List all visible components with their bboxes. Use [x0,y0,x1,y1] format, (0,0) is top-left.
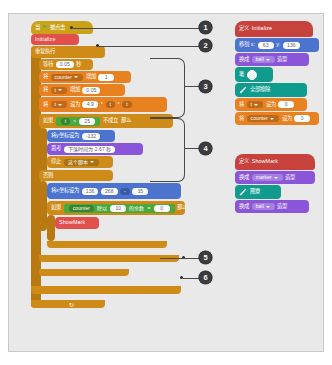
change-counter-variable-dropdown[interactable]: counter [51,74,83,81]
change-counter-label-mid: 增加 [86,74,96,79]
define-set-t-variable-dropdown[interactable]: t [247,101,264,108]
if-mod-variable[interactable]: counter [69,205,94,212]
switch-costume-marker-value: marker [256,175,272,180]
think-label: 思考 [51,146,61,151]
stop-option-value: 这个脚本 [68,160,88,165]
wait-value-input[interactable]: 0.05 [56,61,74,68]
define-initialize-header[interactable]: 定义 Initialize [235,21,313,37]
stop-block[interactable]: 停止 这个脚本 [47,156,113,168]
define-set-counter-variable-dropdown[interactable]: counter [247,115,279,122]
hat-label-right: 被点击 [50,25,65,30]
define-initialize-name: Initialize [252,26,272,31]
if-mod-block-header[interactable]: 如果 counter 除以 10 的余数 = 0 那么 [47,201,185,215]
define-set-counter-value[interactable]: 0 [294,115,310,122]
define-goto-xy-block[interactable]: 移到 x: 63 y: 136 [235,38,319,52]
set-y-block[interactable]: 将y坐标设为 -132 [47,130,115,142]
if-mod-close-arm [47,241,167,248]
switch-costume-ball-2-label-left: 换成 [239,204,249,209]
define-set-t-label-mid: 设为 [266,102,276,107]
change-t-block[interactable]: 将 t 增加 0.05 [39,84,125,96]
if-mod-condition-operator[interactable]: counter 除以 10 的余数 = 0 [64,204,175,213]
change-t-label-mid: 增加 [70,87,80,92]
if-condition-operator-symbol: > [73,119,76,124]
if-mod-label: 如果 [51,205,61,210]
goto-xy-label: 将x坐标设为 [51,188,79,193]
define-set-counter-variable-name: counter [251,116,268,121]
goto-xy-value-x[interactable]: 136 [82,188,99,195]
chevron-down-icon [266,206,270,208]
goto-xy-value-z[interactable]: 35 [132,188,148,195]
chevron-down-icon [254,104,258,106]
define-goto-value-y[interactable]: 136 [283,42,300,49]
set-h-variable-name: t [55,102,57,107]
define-goto-label-x: 移到 x: [239,42,255,47]
if-mod-compare-value[interactable]: 0 [154,205,170,212]
if-close-arm [39,269,129,276]
pen-erase-all-block[interactable]: 全部擦除 [235,83,307,97]
if-condition-operand-a[interactable]: t [61,118,71,125]
chevron-down-icon [266,59,270,61]
set-h-operand-c[interactable]: t [122,101,132,108]
goto-xy-block[interactable]: 将x坐标设为 136 268 - 35 [47,183,181,199]
switch-costume-label-left: 换成 [239,57,249,62]
wait-block[interactable]: 等待 0.05 秒 [39,59,93,70]
define-goto-value-x[interactable]: 63 [258,42,274,49]
if-condition-operator[interactable]: t > 25 [56,117,101,126]
if-mod-equals-symbol: = [148,206,151,211]
callout-1: 1 [199,21,212,34]
change-t-value-input[interactable]: 0.05 [82,87,100,94]
screenshot-root: 当 被点击 Initialize 重复执行 ↻ 等待 0.05 秒 将 coun… [0,0,332,365]
goto-xy-value-y[interactable]: 268 [101,188,118,195]
set-h-block[interactable]: 将 t 设为 4.9 * t * t [39,97,167,112]
if-label: 如果 [43,118,53,123]
green-flag-icon [43,25,48,30]
define-set-counter-block[interactable]: 将 counter 设为 0 [235,112,319,125]
switch-costume-marker-dropdown[interactable]: marker [252,174,283,181]
switch-costume-marker-label-left: 换成 [239,175,249,180]
set-y-value-input[interactable]: -132 [82,133,100,140]
set-h-variable-dropdown[interactable]: t [51,101,68,108]
call-showmark-block[interactable]: ShowMark [55,217,99,229]
forever-block-header[interactable]: 重复执行 [31,46,105,58]
switch-costume-marker-block[interactable]: 换成 marker 造型 [235,171,315,184]
wait-label-right: 秒 [76,62,81,67]
switch-costume-ball-block[interactable]: 换成 ball 造型 [235,53,309,66]
chevron-down-icon [58,104,62,106]
define-set-counter-label-mid: 设为 [282,116,292,121]
switch-costume-dropdown[interactable]: ball [252,56,275,63]
define-initialize-label-left: 定义 [239,26,249,31]
call-initialize-label: Initialize [35,37,55,42]
call-initialize-block[interactable]: Initialize [31,34,79,45]
set-h-operand-b[interactable]: t [106,101,116,108]
if-mod-divisor[interactable]: 10 [110,205,126,212]
define-showmark-header[interactable]: 定义 ShowMark [235,154,315,170]
change-t-variable-dropdown[interactable]: t [51,87,68,94]
define-set-t-block[interactable]: 将 t 设为 0 [235,98,307,111]
change-counter-value-input[interactable]: 1 [98,74,114,81]
goto-xy-operator: - [120,188,130,195]
if-condition-operand-b[interactable]: 25 [79,118,95,125]
pen-color-block[interactable]: 笔 [235,67,273,82]
switch-costume-ball-2-dropdown[interactable]: ball [252,203,275,210]
think-block[interactable]: 思考 下落时间为 2.67 秒 [47,143,143,155]
define-set-t-value[interactable]: 0 [278,101,294,108]
else-block-header[interactable]: 否则 [39,170,113,181]
stop-option-dropdown[interactable]: 这个脚本 [64,159,99,166]
callout-3: 3 [199,80,212,93]
pen-icon [239,86,247,94]
if-branch-left-arm [39,128,47,174]
pen-stamp-block[interactable]: 图章 [235,185,281,199]
switch-costume-label-right: 造型 [277,57,287,62]
wait-label-left: 等待 [43,62,53,67]
switch-costume-ball-2-block[interactable]: 换成 ball 造型 [235,200,309,213]
callout-4: 4 [199,142,212,155]
think-text-input[interactable]: 下落时间为 2.67 秒 [64,146,116,153]
callout-2: 2 [199,39,212,52]
change-counter-block[interactable]: 将 counter 增加 1 [39,71,131,83]
pen-color-swatch[interactable] [247,70,257,80]
callout-4-brace [150,118,185,182]
change-counter-label-left: 将 [43,74,48,79]
forever-label: 重复执行 [35,49,55,54]
set-h-operand-a[interactable]: 4.9 [82,101,98,108]
if-mod-label-then: 那么 [177,205,187,210]
